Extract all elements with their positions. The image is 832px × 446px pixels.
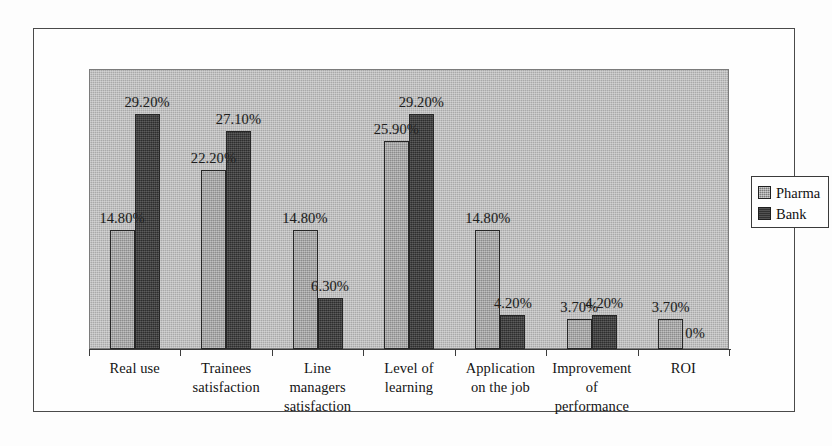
x-axis-tick [89, 349, 90, 356]
legend-swatch-pharma [758, 186, 771, 199]
value-label-pharma-3: 25.90% [374, 121, 419, 138]
category-label-3: Level oflearning [357, 359, 460, 397]
category-label-1: Traineessatisfaction [174, 359, 277, 397]
category-label-4: Applicationon the job [449, 359, 552, 397]
bar-bank-2[interactable] [318, 298, 343, 349]
bar-bank-4[interactable] [500, 315, 525, 349]
category-label-2: Linemanagerssatisfaction [266, 359, 369, 416]
value-label-bank-1: 27.10% [216, 111, 261, 128]
value-label-pharma-6: 3.70% [652, 299, 690, 316]
value-label-bank-2: 6.30% [311, 278, 349, 295]
value-label-pharma-4: 14.80% [465, 210, 510, 227]
value-label-bank-4: 4.20% [494, 295, 532, 312]
x-axis-tick [729, 349, 730, 356]
legend-item-pharma[interactable]: Pharma [758, 182, 824, 203]
legend-label-bank: Bank [776, 207, 807, 221]
bar-bank-0[interactable] [135, 114, 160, 349]
legend-item-bank[interactable]: Bank [758, 203, 824, 224]
chart-legend: Pharma Bank [751, 176, 829, 228]
bar-pharma-0[interactable] [110, 230, 135, 349]
x-axis-tick [455, 349, 456, 356]
value-label-bank-0: 29.20% [124, 94, 169, 111]
x-axis-tick [180, 349, 181, 356]
value-label-bank-6: 0% [685, 325, 705, 342]
bar-pharma-1[interactable] [201, 170, 226, 349]
legend-swatch-bank [758, 207, 771, 220]
category-label-6: ROI [632, 359, 735, 378]
value-label-bank-5: 4.20% [585, 295, 623, 312]
x-axis-line [89, 349, 731, 350]
x-axis-tick [546, 349, 547, 356]
bar-pharma-4[interactable] [475, 230, 500, 349]
value-label-pharma-2: 14.80% [282, 210, 327, 227]
bar-pharma-6[interactable] [658, 319, 683, 349]
x-axis-tick [363, 349, 364, 356]
x-axis-tick [272, 349, 273, 356]
category-label-0: Real use [83, 359, 186, 378]
value-label-pharma-1: 22.20% [191, 150, 236, 167]
value-label-pharma-0: 14.80% [99, 210, 144, 227]
value-label-bank-3: 29.20% [399, 94, 444, 111]
figure-frame: Real useTraineessatisfactionLinemanagers… [33, 28, 795, 412]
legend-label-pharma: Pharma [776, 186, 820, 200]
bar-bank-3[interactable] [409, 114, 434, 349]
category-label-5: Improvementofperformance [540, 359, 643, 416]
bar-pharma-3[interactable] [384, 141, 409, 349]
bar-bank-5[interactable] [592, 315, 617, 349]
x-axis-tick [638, 349, 639, 356]
bar-pharma-5[interactable] [567, 319, 592, 349]
